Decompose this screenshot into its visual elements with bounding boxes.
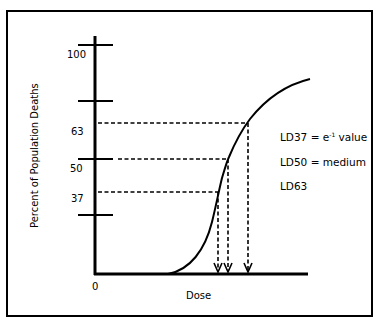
y-label-37: 37	[71, 193, 84, 204]
legend-ld50: LD50 = medium	[280, 156, 366, 168]
x-label-0: 0	[92, 281, 98, 292]
dose-response-curve	[168, 79, 310, 274]
y-axis-title: Percent of Population Deaths	[29, 83, 40, 228]
dose-response-chart: 100 63 50 37 0 Dose Percent of Populatio…	[0, 0, 379, 323]
y-label-50: 50	[70, 163, 83, 174]
legend-ld63: LD63	[280, 180, 307, 192]
legend-ld37: LD37 = e-1 value	[280, 131, 367, 143]
x-axis-title: Dose	[186, 290, 211, 301]
y-label-63: 63	[71, 126, 84, 137]
y-label-100: 100	[67, 49, 86, 60]
